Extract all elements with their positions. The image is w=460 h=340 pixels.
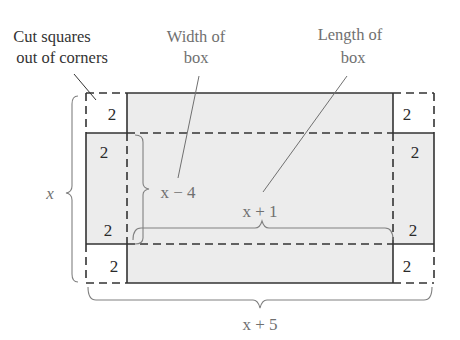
- length-of-box-caption-line1: Length of: [318, 25, 383, 44]
- outer-height-brace: [66, 96, 78, 282]
- cut-squares-caption-line2: out of corners: [16, 48, 108, 67]
- outer-width-label: x + 5: [242, 315, 277, 334]
- inner-length-label: x + 1: [242, 202, 277, 221]
- label-top-left-corner: 2: [108, 105, 117, 124]
- inner-width-label: x − 4: [160, 183, 196, 202]
- diagram-canvas: 2 2 2 2 2 2 2 2 Cut squares out of corne…: [0, 0, 460, 340]
- cut-squares-caption-line1: Cut squares: [13, 27, 90, 46]
- outer-height-label: x: [45, 184, 54, 203]
- label-bottom-left-side: 2: [104, 221, 113, 240]
- box-diagram: 2 2 2 2 2 2 2 2 Cut squares out of corne…: [0, 0, 460, 340]
- label-bottom-right-side: 2: [409, 221, 418, 240]
- label-bottom-right-corner: 2: [403, 257, 412, 276]
- callouts: Cut squares out of corners Width of box …: [13, 25, 383, 67]
- width-of-box-caption-line2: box: [184, 48, 210, 67]
- label-top-right-side: 2: [411, 143, 420, 162]
- width-of-box-caption-line1: Width of: [167, 27, 226, 46]
- length-of-box-caption-line2: box: [341, 48, 367, 67]
- label-top-left-side: 2: [100, 143, 109, 162]
- label-top-right-corner: 2: [403, 105, 412, 124]
- sheet-fill: [86, 93, 434, 283]
- label-bottom-left-corner: 2: [110, 257, 119, 276]
- outer-width-brace: [88, 287, 432, 308]
